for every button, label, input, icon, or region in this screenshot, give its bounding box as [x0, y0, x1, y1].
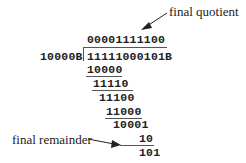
division-bracket — [83, 47, 84, 61]
divisor: 10000B — [40, 51, 83, 63]
final-remainder-label: final remainder — [12, 133, 92, 147]
dividend: 11111000101B — [87, 51, 172, 63]
step-1: 10000 — [87, 64, 123, 76]
quotient: 00001111100 — [87, 34, 165, 46]
step-2: 11110 — [93, 78, 129, 90]
step-3: 11100 — [99, 92, 135, 104]
step-4: 11000 — [106, 106, 142, 118]
step-5: 10001 — [113, 119, 149, 131]
quotient-arrow-icon — [141, 13, 167, 30]
quotient-bar — [84, 47, 167, 48]
step-6: 10 — [139, 133, 153, 145]
final-remainder: 101 — [139, 147, 160, 159]
remainder-arrow-icon — [88, 139, 121, 148]
